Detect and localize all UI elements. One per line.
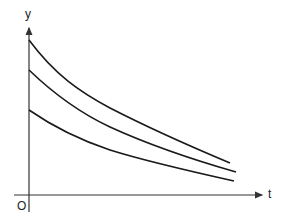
x-axis-label: t — [268, 188, 271, 200]
curve-top — [29, 40, 230, 163]
y-axis-label: y — [25, 8, 31, 20]
curve-bottom — [29, 110, 234, 181]
figure-canvas — [0, 0, 284, 223]
origin-label: O — [17, 200, 26, 212]
